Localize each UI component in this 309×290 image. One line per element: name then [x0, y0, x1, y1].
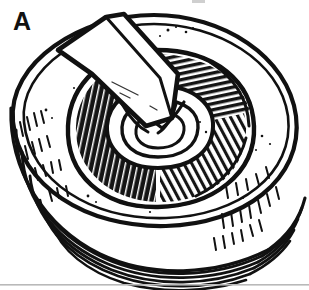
figure-panel: A [0, 0, 309, 290]
spark-plug-illustration [0, 0, 309, 290]
bottom-rule [0, 284, 309, 286]
panel-label: A [13, 9, 31, 34]
top-edge-artifact [192, 0, 205, 3]
